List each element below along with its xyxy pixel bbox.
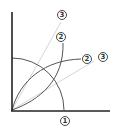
label-upper-three: 3 — [58, 11, 67, 20]
ray-upper-three — [12, 22, 61, 110]
label-right-two-text: 2 — [85, 55, 90, 63]
arc-two-horizontal — [12, 59, 81, 110]
label-upper-two-text: 2 — [59, 33, 64, 41]
label-right-three: 3 — [99, 53, 108, 62]
label-upper-three-text: 3 — [60, 11, 65, 19]
label-right-two: 2 — [83, 55, 92, 64]
label-right-three-text: 3 — [101, 53, 106, 61]
label-bottom-one-text: 1 — [63, 117, 68, 125]
label-bottom-one: 1 — [61, 117, 70, 126]
rotation-diagram: 1 2 3 2 3 — [0, 0, 117, 136]
arc-two-vertical — [12, 43, 63, 110]
label-upper-two: 2 — [57, 33, 66, 42]
